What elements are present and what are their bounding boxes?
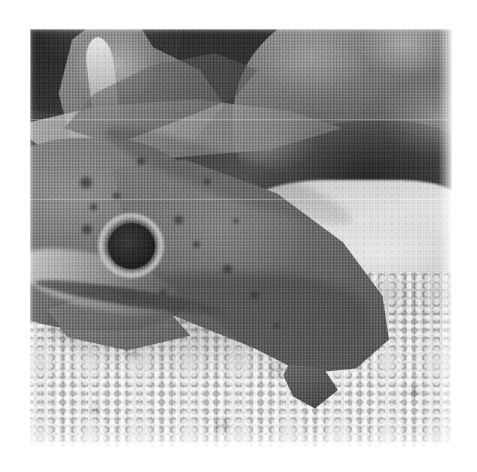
underwater-photograph <box>30 29 452 448</box>
scan-seam <box>30 199 452 200</box>
figure-page: Black and white halftone photograph of a… <box>0 0 477 472</box>
scan-seam <box>30 119 452 120</box>
scan-seam-layer <box>30 29 452 448</box>
